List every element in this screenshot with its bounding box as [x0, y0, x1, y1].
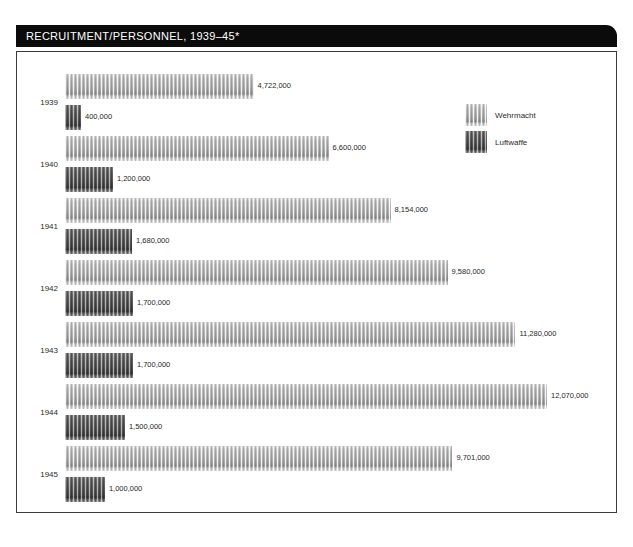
bar-row: 1,700,000 — [65, 291, 616, 316]
bar-value-label: 12,070,000 — [551, 391, 589, 401]
axis-year-label: 1943 — [17, 346, 58, 356]
bar-wehrmacht-1944 — [65, 384, 547, 409]
bar-wehrmacht-1939 — [65, 74, 254, 99]
chart-plot-area: 19394,722,000400,00019406,600,0001,200,0… — [17, 52, 616, 512]
bar-row: 9,701,000 — [65, 446, 616, 471]
bar-wehrmacht-1943 — [65, 322, 515, 347]
bar-value-label: 4,722,000 — [258, 81, 291, 91]
bar-row: 4,722,000 — [65, 74, 616, 99]
bar-wehrmacht-1945 — [65, 446, 452, 471]
bar-value-label: 1,680,000 — [136, 236, 169, 246]
bar-value-label: 400,000 — [85, 112, 112, 122]
bar-value-label: 1,000,000 — [109, 484, 142, 494]
bar-luftwaffe-1940 — [65, 167, 113, 192]
bar-row: 8,154,000 — [65, 198, 616, 223]
bar-row: 1,680,000 — [65, 229, 616, 254]
bar-luftwaffe-1945 — [65, 477, 105, 502]
legend-swatch-luftwaffe — [465, 131, 487, 153]
bar-value-label: 9,580,000 — [452, 267, 485, 277]
bar-value-label: 1,700,000 — [137, 298, 170, 308]
bar-luftwaffe-1941 — [65, 229, 132, 254]
axis-year-label: 1941 — [17, 222, 58, 232]
legend-label-luftwaffe: Luftwaffe — [495, 138, 527, 148]
chart-plot-frame: 19394,722,000400,00019406,600,0001,200,0… — [16, 51, 617, 513]
bar-row: 1,700,000 — [65, 353, 616, 378]
year-group: 19394,722,000400,000 — [17, 74, 616, 130]
axis-year-label: 1940 — [17, 160, 58, 170]
bar-value-label: 9,701,000 — [456, 453, 489, 463]
legend-swatch-wehrmacht — [465, 104, 487, 126]
year-group: 19459,701,0001,000,000 — [17, 446, 616, 502]
year-group: 194311,280,0001,700,000 — [17, 322, 616, 378]
bar-row: 9,580,000 — [65, 260, 616, 285]
bar-wehrmacht-1941 — [65, 198, 391, 223]
bar-value-label: 6,600,000 — [333, 143, 366, 153]
bar-luftwaffe-1942 — [65, 291, 133, 316]
page-title: RECRUITMENT/PERSONNEL, 1939–45* — [26, 29, 239, 43]
year-group: 19429,580,0001,700,000 — [17, 260, 616, 316]
bar-luftwaffe-1939 — [65, 105, 81, 130]
bar-row: 1,200,000 — [65, 167, 616, 192]
bar-row: 12,070,000 — [65, 384, 616, 409]
chart-figure: RECRUITMENT/PERSONNEL, 1939–45* 19394,72… — [16, 25, 617, 515]
legend-label-wehrmacht: Wehrmacht — [495, 111, 536, 121]
year-group: 19418,154,0001,680,000 — [17, 198, 616, 254]
bar-luftwaffe-1943 — [65, 353, 133, 378]
bar-row: 1,000,000 — [65, 477, 616, 502]
bar-wehrmacht-1940 — [65, 136, 329, 161]
bar-row: 1,500,000 — [65, 415, 616, 440]
bar-value-label: 8,154,000 — [395, 205, 428, 215]
year-group: 194412,070,0001,500,000 — [17, 384, 616, 440]
bar-value-label: 1,700,000 — [137, 360, 170, 370]
axis-year-label: 1942 — [17, 284, 58, 294]
bar-value-label: 1,500,000 — [129, 422, 162, 432]
bar-value-label: 11,280,000 — [519, 329, 556, 339]
chart-title-bar: RECRUITMENT/PERSONNEL, 1939–45* — [16, 25, 617, 47]
bar-luftwaffe-1944 — [65, 415, 125, 440]
bar-value-label: 1,200,000 — [117, 174, 150, 184]
bar-wehrmacht-1942 — [65, 260, 448, 285]
axis-year-label: 1944 — [17, 408, 58, 418]
bar-row: 11,280,000 — [65, 322, 616, 347]
axis-year-label: 1945 — [17, 470, 58, 480]
bar-row: 6,600,000 — [65, 136, 616, 161]
axis-year-label: 1939 — [17, 98, 58, 108]
